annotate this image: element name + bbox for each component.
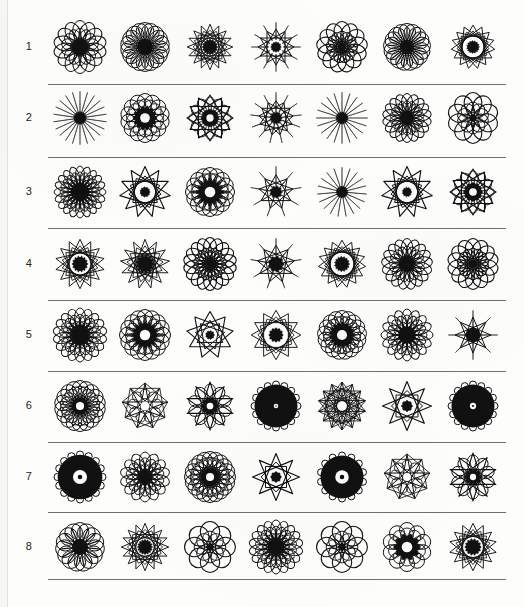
rosette-r3-c6: [376, 156, 438, 228]
rosette-r5-c1: [49, 299, 111, 371]
rosette-r8-c4: [245, 511, 307, 583]
rosette-r7-c3: [179, 441, 241, 513]
pattern-row-cells: [48, 299, 508, 371]
row-separator-1: [48, 84, 506, 85]
pattern-row-cells: [48, 511, 508, 583]
rosette-r6-c1: [49, 370, 111, 442]
rosette-r7-c5: [311, 441, 373, 513]
row-number-label: 5: [18, 329, 40, 340]
rosette-r3-c4: [245, 156, 307, 228]
row-number-label: 2: [18, 112, 40, 123]
rosette-r4-c1: [49, 228, 111, 300]
rosette-r1-c4: [245, 11, 307, 83]
row-number-label: 7: [18, 471, 40, 482]
rosette-r8-c7: [442, 511, 504, 583]
row-separator-7: [48, 512, 506, 513]
row-separator-4: [48, 300, 506, 301]
pattern-row-cells: [48, 156, 508, 228]
row-number-label: 3: [18, 186, 40, 197]
pattern-row-3: 3: [0, 156, 524, 228]
rosette-r6-c6: [376, 370, 438, 442]
rosette-r8-c6: [376, 511, 438, 583]
rosette-r4-c6: [376, 228, 438, 300]
rosette-r2-c3: [179, 82, 241, 154]
rosette-r6-c4: [245, 370, 307, 442]
pattern-row-cells: [48, 441, 508, 513]
rosette-r3-c7: [442, 156, 504, 228]
rosette-r6-c2: [114, 370, 176, 442]
rosette-r8-c1: [49, 511, 111, 583]
rosette-r3-c5: [311, 156, 373, 228]
pattern-row-7: 7: [0, 441, 524, 513]
rosette-r2-c6: [376, 82, 438, 154]
pattern-row-cells: [48, 228, 508, 300]
rosette-r6-c3: [179, 370, 241, 442]
rosette-r2-c1: [49, 82, 111, 154]
rosette-r8-c2: [114, 511, 176, 583]
rosette-r8-c5: [311, 511, 373, 583]
row-number-label: 1: [18, 41, 40, 52]
rosette-r4-c5: [311, 228, 373, 300]
row-separator-8: [48, 579, 506, 580]
rosette-r1-c5: [311, 11, 373, 83]
row-separator-2: [48, 157, 506, 158]
row-number-label: 4: [18, 258, 40, 269]
rosette-r2-c7: [442, 82, 504, 154]
pattern-row-6: 6: [0, 370, 524, 442]
rosette-r1-c1: [49, 11, 111, 83]
rosette-r4-c3: [179, 228, 241, 300]
rosette-r3-c2: [114, 156, 176, 228]
pattern-row-8: 8: [0, 511, 524, 583]
rosette-r4-c7: [442, 228, 504, 300]
rosette-r5-c2: [114, 299, 176, 371]
rosette-r3-c3: [179, 156, 241, 228]
pattern-row-cells: [48, 11, 508, 83]
rosette-r2-c4: [245, 82, 307, 154]
pattern-row-4: 4: [0, 228, 524, 300]
rosette-r5-c3: [179, 299, 241, 371]
rosette-r4-c4: [245, 228, 307, 300]
rosette-r2-c5: [311, 82, 373, 154]
row-number-label: 8: [18, 541, 40, 552]
rosette-r1-c7: [442, 11, 504, 83]
rosette-r7-c7: [442, 441, 504, 513]
pattern-row-1: 1: [0, 11, 524, 83]
rosette-r1-c3: [179, 11, 241, 83]
rosette-r1-c2: [114, 11, 176, 83]
row-separator-3: [48, 228, 506, 229]
document-page: 12345678: [0, 0, 524, 607]
rosette-r4-c2: [114, 228, 176, 300]
rosette-r1-c6: [376, 11, 438, 83]
rosette-r7-c2: [114, 441, 176, 513]
row-separator-6: [48, 442, 506, 443]
rosette-r8-c3: [179, 511, 241, 583]
rosette-r2-c2: [114, 82, 176, 154]
rosette-r6-c5: [311, 370, 373, 442]
rosette-r7-c6: [376, 441, 438, 513]
pattern-row-cells: [48, 82, 508, 154]
rosette-r5-c6: [376, 299, 438, 371]
pattern-row-2: 2: [0, 82, 524, 154]
pattern-row-5: 5: [0, 299, 524, 371]
row-number-label: 6: [18, 400, 40, 411]
rosette-r3-c1: [49, 156, 111, 228]
rosette-r6-c7: [442, 370, 504, 442]
rosette-r7-c4: [245, 441, 307, 513]
pattern-row-cells: [48, 370, 508, 442]
row-separator-5: [48, 371, 506, 372]
rosette-r7-c1: [49, 441, 111, 513]
rosette-r5-c4: [245, 299, 307, 371]
rosette-r5-c5: [311, 299, 373, 371]
rosette-r5-c7: [442, 299, 504, 371]
